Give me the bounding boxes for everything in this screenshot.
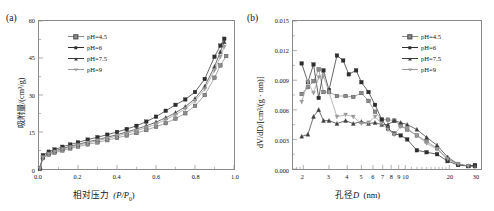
- data-point-square-filled: [203, 77, 207, 81]
- panel-b-x-axis-title-unit: (nm): [364, 190, 381, 200]
- data-point-triangle-down: [359, 122, 363, 126]
- legend-item-pH45[interactable]: pH=4.5: [68, 32, 107, 42]
- panel-b-plot-area: [292, 20, 482, 170]
- data-point-square-filled: [154, 115, 158, 119]
- panel-b-label: (b): [247, 13, 258, 23]
- data-point-triangle-down: [222, 45, 226, 49]
- panel-b-y-axis-title: dV/dD/[cm³/(g · nm)]: [256, 76, 265, 148]
- legend-item-pH45[interactable]: pH=4.5: [402, 32, 441, 42]
- data-point-square-open: [351, 95, 355, 99]
- legend-item-pH6[interactable]: pH=6: [402, 43, 441, 53]
- panel-a-x-axis-title-end: ): [132, 190, 135, 200]
- legend-marker-triangle-down: [74, 68, 78, 71]
- data-point-triangle-down: [311, 91, 315, 95]
- data-point-square-open: [300, 92, 304, 96]
- panel-a-y-axis-title: 吸附量/(cm³/g): [14, 77, 26, 128]
- data-point-square-filled: [435, 152, 439, 156]
- panel-b-xtick: 5: [355, 173, 367, 180]
- legend-line: [68, 69, 84, 70]
- series-pH45: [38, 54, 228, 170]
- legend-marker-triangle-up: [408, 57, 412, 60]
- data-point-triangle-up: [435, 143, 439, 147]
- series-pH75: [38, 40, 226, 171]
- data-point-square-filled: [354, 69, 358, 73]
- panel-a-x-axis-title: 相对压力 (P/P0): [73, 188, 135, 202]
- legend-label: pH=6: [421, 44, 436, 51]
- legend-marker-square-open: [407, 34, 412, 39]
- data-point-square-open: [213, 76, 217, 80]
- panel-a-x-axis-title-sym: (P/P: [113, 190, 129, 200]
- data-point-square-open: [183, 111, 187, 115]
- data-point-square-open: [322, 90, 326, 94]
- data-point-square-filled: [347, 72, 351, 76]
- data-point-square-filled: [399, 134, 403, 138]
- data-point-square-open: [360, 91, 364, 95]
- panel-a-ytick: 45: [20, 54, 35, 61]
- legend-marker-glyph: [408, 57, 412, 60]
- legend-item-pH9[interactable]: pH=9: [402, 65, 441, 75]
- legend-line: [68, 47, 84, 48]
- data-point-square-open: [193, 104, 197, 108]
- data-point-square-filled: [164, 109, 168, 113]
- data-point-square-filled: [322, 69, 326, 73]
- data-point-square-open: [224, 54, 228, 58]
- data-point-square-filled: [380, 118, 384, 122]
- data-point-square-filled: [219, 44, 223, 48]
- data-point-triangle-up: [373, 120, 377, 124]
- legend-label: pH=4.5: [87, 33, 107, 40]
- legend-item-pH75[interactable]: pH=7.5: [402, 54, 441, 64]
- data-point-square-filled: [335, 54, 339, 58]
- panel-a-xtick: 0.4: [110, 173, 124, 180]
- data-point-triangle-down: [335, 115, 339, 119]
- legend-marker-glyph: [74, 46, 77, 49]
- panel-a-xtick: 1.0: [228, 173, 242, 180]
- legend-line: [68, 36, 84, 37]
- legend-marker-glyph: [74, 57, 78, 60]
- series-pH45: [300, 68, 477, 168]
- data-point-square-open: [344, 94, 348, 98]
- legend-item-pH6[interactable]: pH=6: [68, 43, 107, 53]
- data-point-square-open: [219, 64, 223, 68]
- data-point-square-filled: [415, 148, 419, 152]
- legend-label: pH=7.5: [87, 55, 107, 62]
- data-point-square-filled: [405, 138, 409, 142]
- data-point-square-open: [317, 68, 321, 72]
- panel-b-x-axis-title-cn: 孔径: [335, 190, 353, 200]
- panel-b-legend: pH=4.5pH=6pH=7.5pH=9: [402, 32, 441, 76]
- legend-label: pH=4.5: [421, 33, 441, 40]
- legend-item-pH9[interactable]: pH=9: [68, 65, 107, 75]
- data-point-triangle-up: [415, 127, 419, 131]
- data-point-square-filled: [300, 62, 304, 66]
- panel-b-ytick: 0.015: [259, 17, 289, 24]
- panel-b-xtick: 2: [296, 173, 308, 180]
- legend-marker-glyph: [74, 68, 78, 71]
- legend-marker-glyph: [408, 46, 411, 49]
- panel-a-x-axis-title-cn: 相对压力: [73, 190, 109, 200]
- legend-marker-glyph: [407, 34, 412, 39]
- legend-marker-square-filled: [74, 46, 77, 49]
- series-pH6: [38, 37, 226, 170]
- legend-line: [68, 58, 84, 59]
- panel-b-xtick: 30: [470, 173, 482, 180]
- data-point-square-open: [367, 99, 371, 103]
- figure-root: (a) 0.00.20.40.60.81.0015304560 吸附量/(cm³…: [0, 0, 494, 211]
- data-point-square-filled: [341, 59, 345, 63]
- data-point-square-filled: [360, 80, 364, 84]
- data-point-square-filled: [183, 98, 187, 102]
- data-point-triangle-down: [425, 142, 429, 146]
- data-point-square-open: [203, 93, 207, 97]
- data-point-triangle-down: [300, 100, 304, 104]
- data-point-square-filled: [193, 90, 197, 94]
- data-point-triangle-up: [317, 108, 321, 112]
- data-point-square-open: [174, 117, 178, 121]
- series-pH75: [300, 108, 477, 168]
- legend-marker-triangle-down: [408, 68, 412, 71]
- panel-b-ytick: 0.000: [259, 167, 289, 174]
- legend-line: [402, 36, 418, 37]
- legend-label: pH=9: [87, 66, 102, 73]
- legend-item-pH75[interactable]: pH=7.5: [68, 54, 107, 64]
- series-pH9: [38, 45, 226, 171]
- data-point-triangle-up: [306, 132, 310, 136]
- legend-marker-square-open: [73, 34, 78, 39]
- data-point-square-filled: [317, 96, 321, 100]
